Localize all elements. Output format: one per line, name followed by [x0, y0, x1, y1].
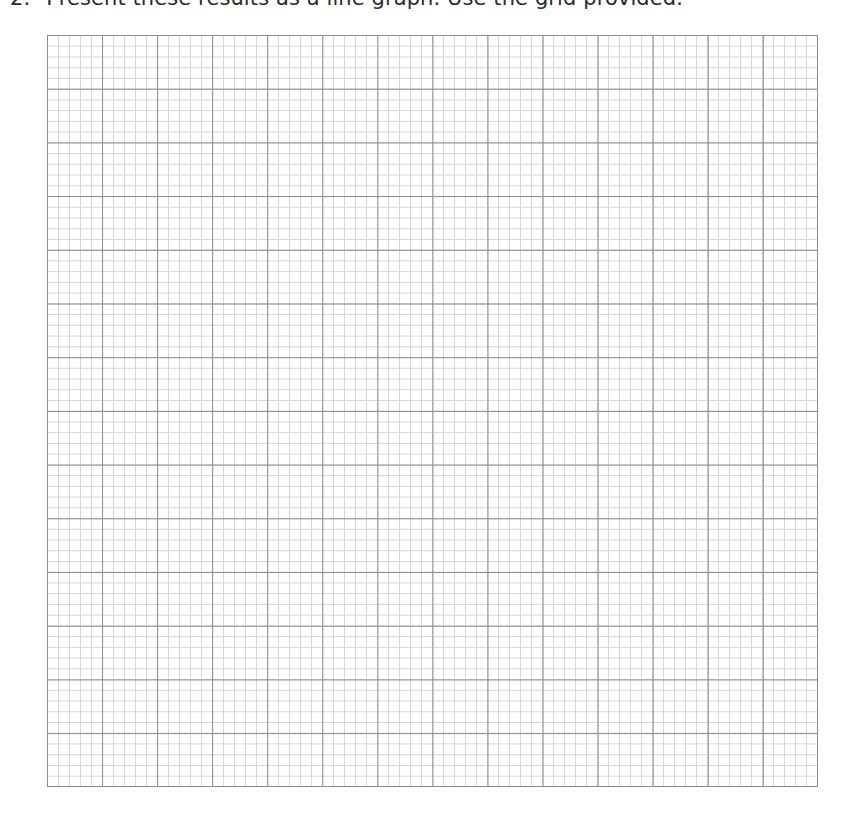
- question-number: 2.: [10, 0, 30, 10]
- question-prompt: 2.Present these results as a line graph.…: [10, 0, 683, 9]
- question-text: Present these results as a line graph. U…: [46, 0, 683, 10]
- graph-paper-grid[interactable]: [47, 35, 818, 787]
